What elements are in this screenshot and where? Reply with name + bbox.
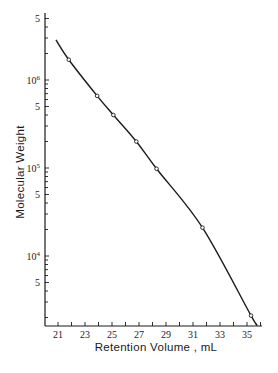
y-tick-label: 5 (35, 101, 40, 112)
data-markers (67, 58, 253, 318)
y-tick-label: 5 (35, 13, 40, 24)
data-point-marker (95, 94, 99, 98)
x-axis-title: Retention Volume , mL (95, 341, 218, 353)
x-tick-label: 29 (161, 329, 171, 340)
x-tick-label: 31 (188, 329, 198, 340)
y-axis: 5106510551045 (27, 13, 50, 326)
data-point-marker (155, 167, 159, 171)
x-tick-label: 23 (80, 329, 90, 340)
calibration-curve (56, 40, 257, 325)
y-tick-label: 104 (27, 250, 41, 262)
x-axis: 2123252729313335 (45, 322, 262, 340)
y-tick-label: 5 (35, 277, 40, 288)
x-tick-label: 33 (215, 329, 225, 340)
x-tick-label: 27 (134, 329, 144, 340)
data-point-marker (135, 140, 139, 144)
y-tick-label: 5 (35, 189, 40, 200)
y-axis-title: Molecular Weight (14, 125, 26, 219)
y-tick-label: 105 (27, 162, 41, 174)
calibration-chart: 5106510551045 2123252729313335 Retention… (0, 0, 278, 373)
data-point-marker (249, 314, 253, 318)
data-point-marker (67, 58, 71, 62)
x-tick-label: 35 (242, 329, 252, 340)
x-tick-label: 21 (53, 329, 63, 340)
data-point-marker (112, 113, 116, 117)
y-tick-label: 106 (27, 74, 41, 86)
data-point-marker (201, 226, 205, 230)
x-tick-label: 25 (107, 329, 117, 340)
